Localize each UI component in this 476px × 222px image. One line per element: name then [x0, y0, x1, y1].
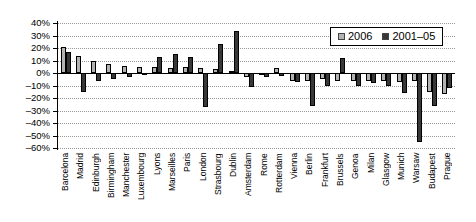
x-axis-label: Manchester	[122, 153, 131, 219]
zero-baseline	[57, 73, 455, 74]
legend-label: 2001–05	[392, 30, 435, 43]
gridline	[57, 48, 455, 49]
y-axis-label: 10%	[16, 56, 50, 66]
x-axis-label-slot: Barcelona	[58, 153, 73, 219]
x-axis-label: Budapest	[428, 153, 437, 219]
x-axis-label: Paris	[183, 153, 192, 219]
gridline	[57, 136, 455, 137]
x-axis-label-slot: Vienna	[287, 153, 302, 219]
legend-item-200105: 2001–05	[382, 30, 435, 43]
y-axis-label: 30%	[16, 31, 50, 41]
bar-200105-milan	[371, 73, 376, 83]
bar-200105-paris	[188, 57, 193, 73]
bar-2006-birmingham	[106, 64, 111, 73]
gridline	[57, 86, 455, 87]
gridline	[57, 61, 455, 62]
bar-200105-prague	[447, 73, 452, 88]
bar-200105-vienna	[295, 73, 300, 82]
legend-swatch	[338, 33, 345, 40]
x-axis-label: Vienna	[290, 153, 299, 219]
x-axis-label: Rome	[260, 153, 269, 219]
x-axis-label-slot: London	[195, 153, 210, 219]
bar-200105-glasgow	[386, 73, 391, 86]
bar-200105-amsterdam	[249, 73, 254, 87]
legend-swatch	[382, 33, 389, 40]
x-axis-label-slot: Glasgow	[379, 153, 394, 219]
x-axis-label: Munich	[397, 153, 406, 219]
bar-200105-barcelona	[66, 52, 71, 73]
x-axis-label-slot: Budapest	[424, 153, 439, 219]
x-axis-label: Genoa	[351, 153, 360, 219]
x-axis-label-slot: Frankfurt	[318, 153, 333, 219]
x-axis-label: Dublin	[229, 153, 238, 219]
x-axis-label-slot: Rome	[257, 153, 272, 219]
x-axis-label-slot: Strasbourg	[211, 153, 226, 219]
x-axis-label: Warsaw	[412, 153, 421, 219]
y-axis-label: 40%	[16, 18, 50, 28]
bar-200105-budapest	[432, 73, 437, 106]
y-axis-label: –30%	[16, 106, 50, 116]
y-axis-label: –10%	[16, 81, 50, 91]
chart-container: 40%30%20%10%0%–10%–20%–30%–40%–50%–60%Ba…	[0, 0, 476, 222]
x-axis-label-slot: Brussels	[333, 153, 348, 219]
gridline	[57, 123, 455, 124]
x-axis-label-slot: Paris	[180, 153, 195, 219]
x-axis-label-slot: Milan	[363, 153, 378, 219]
x-axis-label-slot: Dublin	[226, 153, 241, 219]
bar-200105-warsaw	[417, 73, 422, 142]
bar-2006-brussels	[335, 73, 340, 81]
x-axis-label: Barcelona	[61, 153, 70, 219]
x-axis-label: Glasgow	[382, 153, 391, 219]
x-axis-label-slot: Prague	[440, 153, 455, 219]
legend: 20062001–05	[330, 27, 443, 46]
x-axis-label-slot: Berlin	[302, 153, 317, 219]
y-axis-label: –40%	[16, 118, 50, 128]
y-axis-label: 20%	[16, 43, 50, 53]
bar-200105-brussels	[340, 58, 345, 73]
y-axis-label: –60%	[16, 143, 50, 153]
x-axis-label: Prague	[443, 153, 452, 219]
x-axis-label: Frankfurt	[321, 153, 330, 219]
x-axis-label: Berlin	[305, 153, 314, 219]
bar-200105-dublin	[234, 31, 239, 74]
y-axis-label: 0%	[16, 68, 50, 78]
gridline	[57, 148, 455, 149]
x-axis-label: Brussels	[336, 153, 345, 219]
x-axis-label-slot: Luxembourg	[134, 153, 149, 219]
x-axis-label: Amsterdam	[244, 153, 253, 219]
x-axis-label-slot: Amsterdam	[241, 153, 256, 219]
x-axis-label-slot: Munich	[394, 153, 409, 219]
x-axis-label-slot: Rotterdam	[272, 153, 287, 219]
x-axis-label: Strasbourg	[214, 153, 223, 219]
y-axis-label: –50%	[16, 131, 50, 141]
bar-2006-edinburgh	[91, 61, 96, 74]
x-axis-label-slot: Genoa	[348, 153, 363, 219]
bar-2006-madrid	[76, 56, 81, 74]
bar-200105-edinburgh	[96, 73, 101, 81]
bar-200105-frankfurt	[325, 73, 330, 86]
bar-200105-strasbourg	[218, 44, 223, 73]
gridline	[57, 23, 455, 24]
x-axis-label-slot: Lyons	[150, 153, 165, 219]
bar-200105-berlin	[310, 73, 315, 106]
gridline	[57, 98, 455, 99]
bar-200105-marseilles	[173, 54, 178, 73]
x-axis-label-slot: Warsaw	[409, 153, 424, 219]
bar-200105-lyons	[157, 57, 162, 73]
x-axis-label: Milan	[367, 153, 376, 219]
x-axis-label: Edinburgh	[92, 153, 101, 219]
bar-200105-madrid	[81, 73, 86, 92]
x-axis-label: Marseilles	[168, 153, 177, 219]
x-axis-label: Lyons	[153, 153, 162, 219]
y-axis-label: –20%	[16, 93, 50, 103]
x-axis-label-slot: Manchester	[119, 153, 134, 219]
gridline	[57, 111, 455, 112]
x-axis-label-slot: Madrid	[73, 153, 88, 219]
x-axis-label: Luxembourg	[137, 153, 146, 219]
x-axis-label-slot: Marseilles	[165, 153, 180, 219]
x-axis-label: Rotterdam	[275, 153, 284, 219]
legend-item-2006: 2006	[338, 30, 372, 43]
x-axis-label-slot: Edinburgh	[89, 153, 104, 219]
bar-200105-munich	[402, 73, 407, 93]
bar-200105-genoa	[356, 73, 361, 86]
